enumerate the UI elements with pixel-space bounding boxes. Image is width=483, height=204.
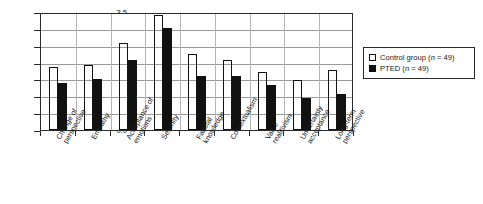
legend-swatch-open-square-icon (369, 54, 376, 61)
legend-item: PTED (n = 49) (369, 63, 469, 74)
bar-control (188, 54, 197, 130)
chart-legend: Control group (n = 49)PTED (n = 49) (363, 47, 475, 79)
bar-control (293, 80, 302, 130)
bar-chart-figure: 0.00.51.01.52.02.53.03.5 Change ofperspe… (0, 0, 483, 204)
x-axis-tick-mark (179, 131, 180, 136)
x-axis-tick-mark (249, 131, 250, 136)
x-axis-tick-mark (110, 131, 111, 136)
bar-control (49, 67, 58, 130)
bar-control (328, 70, 337, 130)
bar-control (223, 60, 232, 130)
legend-label: PTED (n = 49) (380, 65, 429, 73)
x-axis-tick-mark (40, 131, 41, 136)
legend-label: Control group (n = 49) (380, 54, 455, 62)
legend-item: Control group (n = 49) (369, 52, 469, 63)
bar-control (119, 43, 128, 130)
legend-swatch-filled-square-icon (369, 65, 376, 72)
bar-control (84, 65, 93, 130)
